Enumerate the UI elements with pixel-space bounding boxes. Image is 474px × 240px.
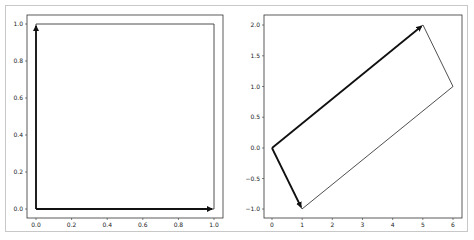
right-axes: 0 1 2 3 4 5 6 −1.0 −0.5 0.0 0.5 1.0 1.5 …: [245, 15, 462, 228]
left-x-ticks: 0.0 0.2 0.4 0.6 0.8 1.0: [31, 218, 219, 228]
left-xtick-label: 1.0: [209, 221, 219, 228]
right-ytick-label: 2.0: [250, 21, 260, 28]
left-xtick-label: 0.8: [174, 221, 184, 228]
right-x-ticks: 0 1 2 3 4 5 6: [270, 218, 455, 228]
left-xtick-label: 0.4: [102, 221, 112, 228]
left-xtick-label: 0.2: [67, 221, 77, 228]
right-ytick-label: 0.0: [250, 144, 260, 151]
right-ytick-label: −1.0: [245, 205, 260, 212]
left-ytick-label: 0.2: [13, 168, 23, 175]
left-axes: 0.0 0.2 0.4 0.6 0.8 1.0 0.0 0.2 0.4 0.6 …: [13, 15, 223, 228]
right-xtick-label: 3: [361, 221, 365, 228]
left-xtick-label: 0.6: [138, 221, 148, 228]
right-xtick-label: 6: [451, 221, 455, 228]
right-plot-area: [264, 15, 462, 218]
right-ytick-label: 0.5: [250, 113, 260, 120]
right-ytick-label: 1.0: [250, 83, 260, 90]
left-ytick-label: 1.0: [13, 20, 23, 27]
left-xtick-label: 0.0: [31, 221, 41, 228]
left-ytick-label: 0.6: [13, 94, 23, 101]
right-ytick-label: 1.5: [250, 52, 260, 59]
right-xtick-label: 5: [421, 221, 425, 228]
right-ytick-label: −0.5: [245, 175, 260, 182]
right-xtick-label: 0: [270, 221, 274, 228]
left-plot-area: [27, 15, 223, 218]
right-xtick-label: 4: [391, 221, 395, 228]
right-y-ticks: −1.0 −0.5 0.0 0.5 1.0 1.5 2.0: [245, 21, 264, 212]
left-ytick-label: 0.0: [13, 205, 23, 212]
left-ytick-label: 0.4: [13, 131, 23, 138]
right-xtick-label: 1: [300, 221, 304, 228]
left-y-ticks: 0.0 0.2 0.4 0.6 0.8 1.0: [13, 20, 27, 212]
right-xtick-label: 2: [330, 221, 334, 228]
left-ytick-label: 0.8: [13, 57, 23, 64]
figure-canvas: 0.0 0.2 0.4 0.6 0.8 1.0 0.0 0.2 0.4 0.6 …: [0, 0, 474, 240]
